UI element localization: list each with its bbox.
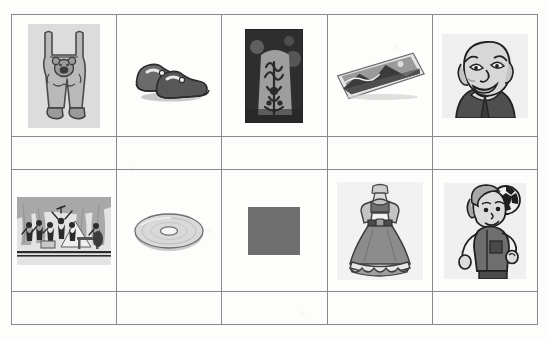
answer-cell-6[interactable] bbox=[12, 292, 117, 325]
cell-ornament-photo[interactable] bbox=[222, 15, 327, 137]
cell-dress[interactable] bbox=[327, 170, 432, 292]
answer-blank bbox=[433, 137, 537, 169]
answer-cell-2[interactable] bbox=[117, 137, 222, 170]
old-man-icon bbox=[442, 34, 528, 118]
answer-cell-9[interactable] bbox=[327, 292, 432, 325]
dress-icon bbox=[337, 182, 423, 280]
overalls-icon bbox=[28, 24, 100, 128]
answer-blank bbox=[12, 292, 116, 324]
cell-boy-with-ball[interactable] bbox=[432, 170, 537, 292]
answer-cell-5[interactable] bbox=[432, 137, 537, 170]
answer-blank bbox=[117, 292, 221, 324]
grey-square-icon bbox=[248, 207, 300, 255]
answer-blank bbox=[222, 292, 326, 324]
table-row bbox=[12, 137, 538, 170]
answer-cell-10[interactable] bbox=[432, 292, 537, 325]
ornament-photo-icon bbox=[245, 29, 303, 123]
table-row bbox=[12, 292, 538, 325]
cell-orchestra[interactable] bbox=[12, 170, 117, 292]
answer-blank bbox=[328, 292, 432, 324]
table-row bbox=[12, 15, 538, 137]
answer-blank bbox=[222, 137, 326, 169]
cell-compact-disc[interactable] bbox=[117, 170, 222, 292]
answer-cell-7[interactable] bbox=[117, 292, 222, 325]
cell-overalls[interactable] bbox=[12, 15, 117, 137]
answer-cell-1[interactable] bbox=[12, 137, 117, 170]
answer-blank bbox=[328, 137, 432, 169]
answer-blank bbox=[12, 137, 116, 169]
cell-postcard[interactable] bbox=[327, 15, 432, 137]
answer-cell-3[interactable] bbox=[222, 137, 327, 170]
postcard-icon bbox=[332, 50, 428, 102]
answer-cell-8[interactable] bbox=[222, 292, 327, 325]
answer-cell-4[interactable] bbox=[327, 137, 432, 170]
cell-old-man[interactable] bbox=[432, 15, 537, 137]
cell-shoes[interactable] bbox=[117, 15, 222, 137]
compact-disc-icon bbox=[129, 207, 209, 255]
orchestra-icon bbox=[17, 197, 111, 265]
boy-with-ball-icon bbox=[444, 183, 526, 279]
answer-blank bbox=[117, 137, 221, 169]
worksheet-table bbox=[11, 14, 538, 325]
picture-grid-worksheet bbox=[11, 14, 538, 320]
answer-blank bbox=[433, 292, 537, 324]
table-row bbox=[12, 170, 538, 292]
shoes-icon bbox=[127, 48, 211, 104]
cell-grey-square[interactable] bbox=[222, 170, 327, 292]
